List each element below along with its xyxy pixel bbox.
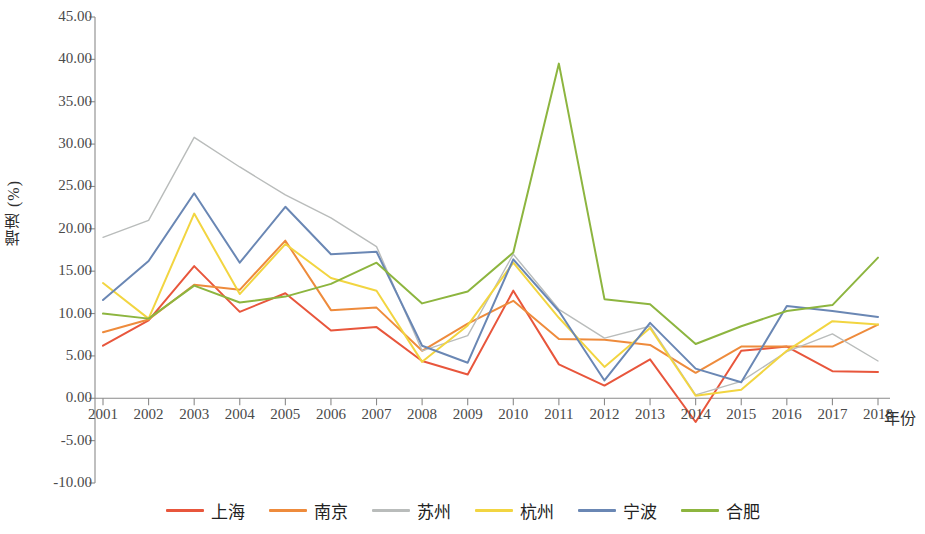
legend-label: 宁波 bbox=[623, 498, 657, 523]
legend-swatch-icon bbox=[475, 509, 513, 512]
y-tick-label: 45.00 bbox=[28, 8, 92, 25]
legend-label: 南京 bbox=[314, 498, 348, 523]
series-line-1 bbox=[103, 241, 878, 373]
y-tick-label: 20.00 bbox=[28, 220, 92, 237]
y-tick-label: 40.00 bbox=[28, 50, 92, 67]
plot-area bbox=[0, 0, 925, 534]
y-tick-label: 35.00 bbox=[28, 93, 92, 110]
y-tick-label: 15.00 bbox=[28, 262, 92, 279]
legend-label: 合肥 bbox=[726, 498, 760, 523]
y-tick-label: 5.00 bbox=[28, 347, 92, 364]
chart-legend: 上海南京苏州杭州宁波合肥 bbox=[0, 498, 925, 523]
legend-swatch-icon bbox=[681, 509, 719, 512]
series-line-2 bbox=[103, 137, 878, 395]
legend-swatch-icon bbox=[372, 509, 410, 512]
series-line-5 bbox=[103, 64, 878, 344]
legend-item-3[interactable]: 杭州 bbox=[475, 498, 554, 523]
legend-label: 苏州 bbox=[417, 498, 451, 523]
legend-item-5[interactable]: 合肥 bbox=[681, 498, 760, 523]
y-tick-label: 30.00 bbox=[28, 135, 92, 152]
legend-item-0[interactable]: 上海 bbox=[166, 498, 245, 523]
x-axis-title: 年份 bbox=[884, 405, 916, 429]
y-axis-title: 增速 (%) bbox=[2, 180, 32, 246]
legend-item-2[interactable]: 苏州 bbox=[372, 498, 451, 523]
y-tick-label: -5.00 bbox=[28, 432, 92, 449]
y-tick-label: 0.00 bbox=[28, 389, 92, 406]
legend-label: 杭州 bbox=[520, 498, 554, 523]
legend-label: 上海 bbox=[211, 498, 245, 523]
legend-item-1[interactable]: 南京 bbox=[269, 498, 348, 523]
y-tick-label: 10.00 bbox=[28, 305, 92, 322]
data-lines bbox=[103, 64, 878, 422]
legend-swatch-icon bbox=[578, 509, 616, 512]
legend-swatch-icon bbox=[269, 509, 307, 512]
y-tick-label: -10.00 bbox=[28, 474, 92, 491]
y-tick-label: 25.00 bbox=[28, 177, 92, 194]
line-chart: 45.0040.0035.0030.0025.0020.0015.0010.00… bbox=[0, 0, 925, 534]
legend-item-4[interactable]: 宁波 bbox=[578, 498, 657, 523]
legend-swatch-icon bbox=[166, 509, 204, 512]
